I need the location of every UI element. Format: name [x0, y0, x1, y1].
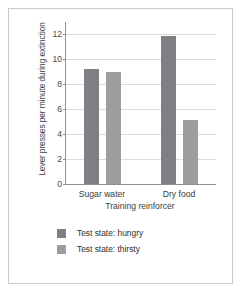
x-axis-title: Training reinforcer: [65, 201, 215, 211]
legend-item-label: Test state: thirsty: [77, 244, 140, 254]
y-tick-label: 8: [57, 79, 62, 89]
y-tick-mark: [63, 34, 66, 35]
legend-item: Test state: thirsty: [57, 241, 217, 257]
legend-swatch-icon: [57, 245, 66, 254]
y-tick-mark: [63, 184, 66, 185]
plot-region: Lever presses per minute during extincti…: [9, 9, 234, 224]
y-tick-mark: [63, 84, 66, 85]
legend-swatch-icon: [57, 229, 66, 238]
chart-legend: Test state: hungryTest state: thirsty: [57, 225, 217, 257]
gridline: [66, 59, 216, 60]
figure-frame: Lever presses per minute during extincti…: [8, 8, 233, 284]
bar: [84, 69, 99, 184]
gridline: [66, 34, 216, 35]
legend-item-label: Test state: hungry: [77, 228, 143, 238]
bar: [183, 120, 198, 184]
y-axis-title: Lever presses per minute during extincti…: [37, 19, 47, 179]
x-tick-label: Dry food: [163, 189, 195, 199]
y-tick-label: 0: [57, 179, 62, 189]
y-tick-label: 10: [52, 54, 62, 64]
y-tick-label: 12: [52, 29, 62, 39]
y-tick-mark: [63, 159, 66, 160]
bar: [161, 36, 176, 184]
bar: [106, 72, 121, 184]
x-tick-label: Sugar water: [79, 189, 125, 199]
y-tick-mark: [63, 134, 66, 135]
y-tick-label: 4: [57, 129, 62, 139]
plot-area: 024681012Sugar waterDry food: [65, 22, 216, 185]
y-tick-mark: [63, 59, 66, 60]
y-tick-mark: [63, 109, 66, 110]
legend-item: Test state: hungry: [57, 225, 217, 241]
y-tick-label: 6: [57, 104, 62, 114]
y-tick-label: 2: [57, 154, 62, 164]
